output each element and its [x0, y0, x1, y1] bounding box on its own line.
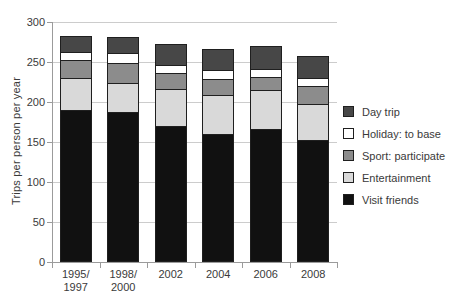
y-tick-label-150: 150 — [0, 137, 45, 148]
bar-segment-visit-friends — [107, 112, 139, 262]
stacked-bar-chart: Trips per person per year 05010015020025… — [0, 0, 457, 306]
bar-segment-visit-friends — [202, 134, 234, 262]
bar-segment-visit-friends — [155, 126, 187, 262]
gridline-200 — [52, 102, 337, 103]
y-tick-mark — [47, 62, 52, 63]
bar-2004 — [202, 22, 234, 262]
y-tick-label-50: 50 — [0, 217, 45, 228]
bar-segment-entertainment — [155, 89, 187, 127]
legend-swatch-entertainment — [343, 172, 354, 183]
y-tick-mark — [47, 22, 52, 23]
bar-segment-holiday-to-base — [250, 69, 282, 78]
legend-swatch-day-trip — [343, 106, 354, 117]
bar-segment-sport-participate — [202, 79, 234, 96]
bar-segment-entertainment — [107, 83, 139, 113]
bar-segment-entertainment — [297, 104, 329, 140]
bar-2002 — [155, 22, 187, 262]
bar-segment-visit-friends — [60, 110, 92, 262]
bar-segment-day-trip — [107, 37, 139, 54]
gridline-250 — [52, 62, 337, 63]
bar-segment-holiday-to-base — [297, 78, 329, 87]
bar-segment-sport-participate — [155, 73, 187, 90]
gridline-300 — [52, 22, 337, 23]
x-category-label-2006: 2006 — [242, 268, 290, 281]
legend-swatch-visit-friends — [343, 194, 354, 205]
legend-label-holiday-to-base: Holiday: to base — [362, 128, 441, 140]
bar-segment-day-trip — [250, 46, 282, 70]
bar-segment-day-trip — [155, 44, 187, 67]
legend-label-day-trip: Day trip — [362, 106, 400, 118]
y-tick-label-250: 250 — [0, 57, 45, 68]
bar-1998-2000 — [107, 22, 139, 262]
bar-segment-day-trip — [60, 36, 92, 54]
bar-segment-visit-friends — [250, 129, 282, 262]
bar-segment-sport-participate — [107, 63, 139, 84]
gridline-50 — [52, 222, 337, 223]
bar-2008 — [297, 22, 329, 262]
legend-item-holiday-to-base: Holiday: to base — [343, 127, 445, 140]
bar-segment-holiday-to-base — [107, 53, 139, 64]
bar-segment-sport-participate — [250, 77, 282, 91]
legend-item-visit-friends: Visit friends — [343, 193, 445, 206]
x-tick-mark — [337, 263, 338, 268]
legend-item-day-trip: Day trip — [343, 105, 445, 118]
plot-area — [52, 22, 337, 262]
gridline-100 — [52, 182, 337, 183]
x-category-label-1998-2000: 1998/ 2000 — [100, 268, 148, 294]
bar-2006 — [250, 22, 282, 262]
legend-item-sport-participate: Sport: participate — [343, 149, 445, 162]
bar-segment-holiday-to-base — [60, 52, 92, 60]
bar-segment-entertainment — [60, 78, 92, 111]
y-tick-mark — [47, 182, 52, 183]
legend-label-entertainment: Entertainment — [362, 172, 430, 184]
bar-segment-holiday-to-base — [155, 65, 187, 74]
y-tick-label-0: 0 — [0, 257, 45, 268]
y-tick-label-300: 300 — [0, 17, 45, 28]
bar-1995-1997 — [60, 22, 92, 262]
x-category-label-2008: 2008 — [290, 268, 338, 281]
legend: Day tripHoliday: to baseSport: participa… — [343, 105, 445, 215]
gridline-150 — [52, 142, 337, 143]
bar-segment-visit-friends — [297, 140, 329, 262]
y-tick-label-200: 200 — [0, 97, 45, 108]
legend-item-entertainment: Entertainment — [343, 171, 445, 184]
legend-label-visit-friends: Visit friends — [362, 194, 419, 206]
bar-segment-day-trip — [202, 49, 234, 71]
bar-segment-sport-participate — [60, 60, 92, 79]
y-tick-mark — [47, 142, 52, 143]
bar-segment-entertainment — [250, 90, 282, 130]
legend-swatch-sport-participate — [343, 150, 354, 161]
legend-swatch-holiday-to-base — [343, 128, 354, 139]
bar-segment-day-trip — [297, 56, 329, 79]
y-axis-line — [52, 22, 53, 263]
x-category-label-1995-1997: 1995/ 1997 — [52, 268, 100, 294]
y-tick-mark — [47, 222, 52, 223]
bar-segment-sport-participate — [297, 86, 329, 105]
x-category-label-2002: 2002 — [147, 268, 195, 281]
x-category-label-2004: 2004 — [195, 268, 243, 281]
y-tick-label-100: 100 — [0, 177, 45, 188]
bar-segment-entertainment — [202, 95, 234, 135]
legend-label-sport-participate: Sport: participate — [362, 150, 445, 162]
y-tick-mark — [47, 102, 52, 103]
bar-segment-holiday-to-base — [202, 70, 234, 80]
